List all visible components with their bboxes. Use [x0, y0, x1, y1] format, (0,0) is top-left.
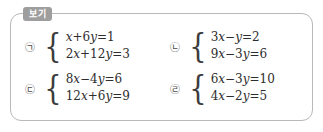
option-item-2: ㉡ { 3x−y=2 9x−3y=6 — [156, 25, 314, 67]
equation-list-4: 6x−3y=10 4x−2y=5 — [211, 71, 275, 106]
option-marker-1: ㉠ — [22, 39, 38, 54]
equation-4-2: 4x−2y=5 — [211, 88, 275, 105]
equation-list-1: x+6y=1 2x+12y=3 — [66, 29, 130, 64]
equation-system-4: { 6x−3y=10 4x−2y=5 — [187, 71, 275, 106]
equation-system-1: { x+6y=1 2x+12y=3 — [42, 29, 130, 64]
equation-list-3: 8x−4y=6 12x+6y=9 — [66, 71, 130, 106]
equation-1-1: x+6y=1 — [66, 29, 130, 46]
boxi-label-tag: 보기 — [23, 7, 52, 21]
equation-system-3: { 8x−4y=6 12x+6y=9 — [42, 71, 130, 106]
equation-4-1: 6x−3y=10 — [211, 71, 275, 88]
boxi-container: 보기 ㉠ { x+6y=1 2x+12y=3 ㉡ { 3x−y=2 9x−3y=… — [10, 13, 313, 121]
left-brace-icon: { — [189, 32, 206, 60]
option-marker-4: ㉣ — [167, 81, 183, 96]
option-item-3: ㉢ { 8x−4y=6 12x+6y=9 — [11, 67, 156, 109]
equation-3-2: 12x+6y=9 — [66, 88, 130, 105]
left-brace-icon: { — [44, 74, 61, 102]
equation-list-2: 3x−y=2 9x−3y=6 — [211, 29, 268, 64]
options-grid: ㉠ { x+6y=1 2x+12y=3 ㉡ { 3x−y=2 9x−3y=6 ㉢ — [11, 25, 314, 109]
option-marker-2: ㉡ — [167, 39, 183, 54]
equation-system-2: { 3x−y=2 9x−3y=6 — [187, 29, 267, 64]
option-item-1: ㉠ { x+6y=1 2x+12y=3 — [11, 25, 156, 67]
equation-1-2: 2x+12y=3 — [66, 46, 130, 63]
equation-2-1: 3x−y=2 — [211, 29, 268, 46]
option-item-4: ㉣ { 6x−3y=10 4x−2y=5 — [156, 67, 314, 109]
option-marker-3: ㉢ — [22, 81, 38, 96]
left-brace-icon: { — [189, 74, 206, 102]
equation-2-2: 9x−3y=6 — [211, 46, 268, 63]
equation-3-1: 8x−4y=6 — [66, 71, 130, 88]
left-brace-icon: { — [44, 32, 61, 60]
